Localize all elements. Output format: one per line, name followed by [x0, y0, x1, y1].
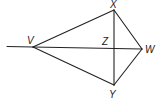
label-x: X — [109, 0, 117, 10]
ray-extension-left-of-v — [7, 47, 33, 48]
segment-yv — [33, 47, 114, 85]
kite-diagram: V X Z W Y — [0, 0, 162, 102]
diagonal-vw — [33, 47, 142, 49]
label-y: Y — [109, 89, 117, 100]
segment-xw — [114, 10, 142, 49]
label-w: W — [145, 44, 156, 55]
segment-wy — [114, 49, 142, 85]
label-z: Z — [101, 36, 109, 47]
label-v: V — [27, 35, 35, 46]
